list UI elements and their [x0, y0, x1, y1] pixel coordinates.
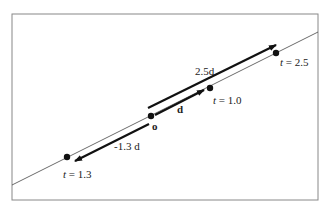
point-origin	[148, 113, 154, 119]
label-t-1.0: t = 1.0	[213, 94, 242, 106]
label-t-2.5: t = 2.5	[280, 56, 309, 68]
label-t-neg-1.3: t = 1.3	[63, 168, 92, 180]
ray-line	[12, 32, 318, 185]
point-t-neg-1.3	[64, 154, 70, 160]
label-origin: o	[152, 120, 158, 132]
label-neg-1.3d-text: -1.3 d	[114, 140, 140, 152]
ray-diagram: 2.5d d o -1.3 d t = 2.5 t = 1.0 t = 1.3	[0, 0, 329, 212]
point-t-2.5	[273, 50, 279, 56]
label-neg-1.3d: -1.3 d	[114, 140, 140, 152]
point-t-1.0	[207, 85, 213, 91]
diagram-frame	[12, 14, 318, 200]
label-2.5d: 2.5d	[195, 65, 215, 77]
label-d: d	[177, 103, 183, 115]
